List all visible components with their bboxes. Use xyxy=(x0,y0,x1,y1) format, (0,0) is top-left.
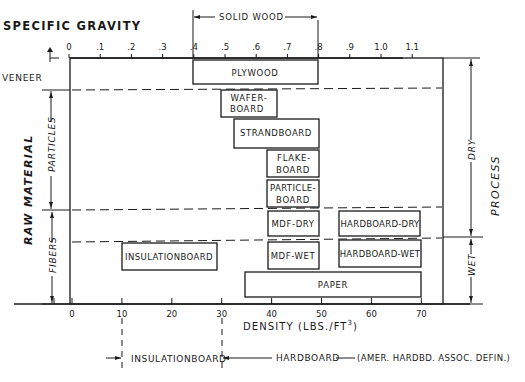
dry-label: DRY xyxy=(467,138,477,160)
down-arrow-icon xyxy=(50,296,54,302)
sg-tick-label: .4 xyxy=(190,42,198,52)
particles-fibers-divider xyxy=(72,207,442,210)
svg-text:INSULATIONBOARD: INSULATIONBOARD xyxy=(125,252,213,262)
right-arrow-icon xyxy=(311,15,317,19)
solid-wood-label: SOLID WOOD xyxy=(219,12,284,22)
hardboard-definition-label: HARDBOARD xyxy=(276,353,340,363)
sg-tick-label: 1.0 xyxy=(374,42,388,52)
svg-text:HARDBOARD-WET: HARDBOARD-WET xyxy=(340,249,421,259)
product-particleboard: PARTICLE- BOARD xyxy=(267,180,319,207)
svg-text:MDF-WET: MDF-WET xyxy=(271,251,316,261)
svg-text:PARTICLE-: PARTICLE- xyxy=(270,183,316,193)
down-arrow-icon xyxy=(469,296,473,302)
svg-text:HARDBOARD-DRY: HARDBOARD-DRY xyxy=(340,219,420,229)
fibers-label: FIBERS xyxy=(48,237,58,273)
sg-tick-label: .3 xyxy=(159,42,167,52)
product-mdf-wet: MDF-WET xyxy=(268,242,319,269)
density-tick-label: 40 xyxy=(266,309,277,319)
sg-tick-label: .5 xyxy=(221,42,229,52)
product-hardboard-dry: HARDBOARD-DRY xyxy=(339,211,420,236)
down-arrow-icon xyxy=(49,202,53,208)
svg-text:WAFER-: WAFER- xyxy=(231,93,268,103)
svg-text:BOARD: BOARD xyxy=(276,195,310,205)
up-arrow-icon xyxy=(49,92,53,98)
product-plywood: PLYWOOD xyxy=(193,60,318,84)
product-insulationboard: INSULATIONBOARD xyxy=(122,243,217,270)
sg-tick-label: .7 xyxy=(283,42,291,52)
process-title: PROCESS xyxy=(489,155,502,216)
up-arrow-icon xyxy=(469,239,473,245)
sg-tick-label: .8 xyxy=(315,42,323,52)
sg-tick-label: 1.1 xyxy=(405,42,419,52)
density-tick-label: 10 xyxy=(116,309,127,319)
density-ticks: 010203040506070 xyxy=(69,298,426,319)
wood-composites-diagram: SPECIFIC GRAVITY 0.1.2.3.4.5.6.7.8.91.01… xyxy=(0,0,525,382)
product-hardboard-wet: HARDBOARD-WET xyxy=(339,240,421,267)
density-tick-label: 60 xyxy=(366,309,377,319)
product-mdf-dry: MDF-DRY xyxy=(268,211,319,236)
specific-gravity-ticks: 0.1.2.3.4.5.6.7.8.91.01.1 xyxy=(66,42,419,58)
wet-label: WET xyxy=(467,253,477,276)
up-arrow-icon xyxy=(50,212,54,218)
density-tick-label: 30 xyxy=(216,309,227,319)
sg-tick-label: .9 xyxy=(346,42,354,52)
density-tick-label: 50 xyxy=(316,309,327,319)
svg-text:MDF-DRY: MDF-DRY xyxy=(271,219,314,229)
product-paper: PAPER xyxy=(245,272,421,297)
svg-text:BOARD: BOARD xyxy=(276,165,310,175)
sg-tick-label: .1 xyxy=(96,42,104,52)
svg-text:STRANDBOARD: STRANDBOARD xyxy=(240,128,312,138)
specific-gravity-title: SPECIFIC GRAVITY xyxy=(3,19,141,33)
svg-text:FLAKE-: FLAKE- xyxy=(277,153,311,163)
density-tick-label: 70 xyxy=(416,309,427,319)
sg-tick-label: .6 xyxy=(252,42,260,52)
density-title: DENSITY (LBS./FT3) xyxy=(243,319,358,332)
svg-text:PLYWOOD: PLYWOOD xyxy=(231,68,278,78)
raw-material-title: RAW MATERIAL xyxy=(22,134,35,245)
left-arrow-icon xyxy=(194,15,200,19)
density-tick-label: 20 xyxy=(166,309,177,319)
product-waferboard: WAFER- BOARD xyxy=(221,90,277,117)
svg-text:PAPER: PAPER xyxy=(318,280,348,290)
product-strandboard: STRANDBOARD xyxy=(234,119,319,148)
density-tick-label: 0 xyxy=(69,309,74,319)
down-arrow-icon xyxy=(469,229,473,235)
up-arrow-icon xyxy=(469,60,473,66)
veneer-label: VENEER xyxy=(2,73,42,83)
sg-tick-label: .2 xyxy=(127,42,135,52)
sg-tick-label: 0 xyxy=(66,42,71,52)
product-flakeboard: FLAKE- BOARD xyxy=(267,150,319,177)
particles-label: PARTICLES xyxy=(47,117,57,172)
svg-text:BOARD: BOARD xyxy=(230,104,264,114)
right-arrow-icon xyxy=(115,356,121,360)
up-arrow-icon xyxy=(47,47,53,52)
hardboard-definition-note: (AMER. HARDBD. ASSOC. DEFIN.) xyxy=(357,353,510,363)
insulationboard-definition-label: INSULATIONBOARD xyxy=(131,354,227,364)
